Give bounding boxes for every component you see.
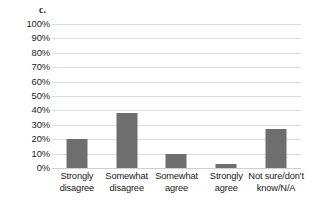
y-axis-tick-label: 100% [0,19,50,29]
bar [216,164,237,168]
bar-slot [152,24,202,168]
y-axis-tick-label: 60% [0,77,50,87]
bar-slot [102,24,152,168]
x-axis-category-label: Not sure/don'tknow/N/A [242,170,310,195]
y-axis-tick-label: 40% [0,105,50,115]
y-axis-tick-label: 10% [0,149,50,159]
y-axis-tick-label: 30% [0,120,50,130]
y-axis-tick-label: 80% [0,48,50,58]
bar-chart-plot: 100%90%80%70%60%50%40%30%20%10%0% Strong… [0,0,313,207]
bar-slot [201,24,251,168]
bar-series [52,24,301,168]
y-axis-tick-label: 50% [0,91,50,101]
x-axis-category-labels: StronglydisagreeSomewhatdisagreeSomewhat… [52,170,301,204]
x-axis-category-label-line: know/N/A [242,182,310,194]
x-axis-category-label-line: Not sure/don't [242,170,310,182]
bar-slot [52,24,102,168]
bar [266,129,287,168]
y-axis-tick-label: 90% [0,33,50,43]
bar [166,154,187,168]
bar [116,113,137,168]
y-axis-tick-label: 20% [0,134,50,144]
y-axis-tick-label: 70% [0,62,50,72]
bar-slot [251,24,301,168]
chart-screenshot: c. 100%90%80%70%60%50%40%30%20%10%0% Str… [0,0,313,207]
gridline-0 [52,168,301,169]
bar [66,139,87,168]
